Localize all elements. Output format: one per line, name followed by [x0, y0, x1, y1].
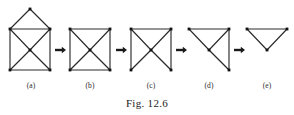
figure-caption: Fig. 12.6	[0, 97, 294, 109]
panel-label-c: (c)	[136, 81, 166, 90]
graph-vertex	[49, 28, 52, 31]
graph-vertex	[9, 69, 12, 72]
graph-vertex	[69, 28, 72, 31]
graph-vertex	[228, 28, 231, 31]
graph-edge	[247, 29, 267, 50]
graph-vertex	[170, 28, 173, 31]
graph-vertex	[69, 69, 72, 72]
graph-vertex	[246, 28, 249, 31]
transformation-arrow-icon	[116, 47, 127, 53]
panel-label-a: (a)	[16, 81, 46, 90]
graph-vertex	[130, 28, 133, 31]
graph-edge	[30, 9, 50, 29]
panel-label-b: (b)	[75, 81, 105, 90]
graph-edge	[10, 29, 30, 50]
graph-vertex	[49, 69, 52, 72]
graph-edges-layer	[10, 9, 287, 70]
graph-vertex	[130, 69, 133, 72]
graph-edge	[267, 29, 287, 50]
graph-vertex	[109, 28, 112, 31]
graph-vertex	[170, 69, 173, 72]
graph-edge	[90, 50, 110, 70]
graph-edge	[131, 29, 151, 50]
graph-edge	[70, 29, 90, 50]
graph-vertex	[29, 8, 32, 11]
graph-edge	[90, 29, 110, 50]
graph-edge	[151, 29, 171, 50]
graph-edge	[10, 50, 30, 70]
graph-vertex	[266, 49, 269, 52]
panel-label-d: (d)	[194, 81, 224, 90]
graph-vertex	[89, 49, 92, 52]
transformation-arrow-icon	[55, 47, 66, 53]
graph-vertex	[9, 28, 12, 31]
transformation-arrow-icon	[234, 47, 245, 53]
graph-edge	[209, 50, 229, 70]
graph-vertex	[228, 69, 231, 72]
graph-vertex	[109, 69, 112, 72]
graph-edge	[189, 29, 209, 50]
graph-edge	[30, 50, 50, 70]
graph-edge	[131, 50, 151, 70]
graph-edge	[209, 29, 229, 50]
graph-vertex	[208, 49, 211, 52]
graph-vertex	[286, 28, 289, 31]
graph-edge	[70, 50, 90, 70]
graph-vertex	[188, 28, 191, 31]
graph-edge	[151, 50, 171, 70]
panel-label-e: (e)	[252, 81, 282, 90]
graph-vertex	[29, 49, 32, 52]
graph-edge	[10, 9, 30, 29]
graph-vertex	[150, 49, 153, 52]
figure-container: (a) (b) (c) (d) (e) Fig. 12.6	[0, 0, 294, 115]
graph-edge	[30, 29, 50, 50]
transformation-arrow-icon	[176, 47, 187, 53]
